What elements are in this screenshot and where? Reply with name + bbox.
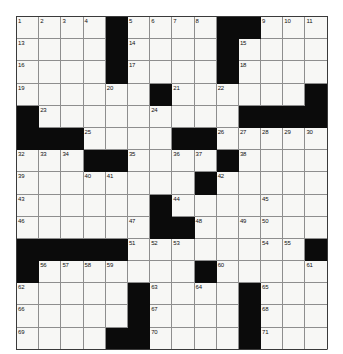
- letter-square[interactable]: 1: [17, 17, 39, 39]
- letter-square[interactable]: [150, 150, 172, 172]
- letter-square[interactable]: [128, 261, 150, 283]
- letter-square[interactable]: 47: [128, 217, 150, 239]
- letter-square[interactable]: 36: [172, 150, 194, 172]
- letter-square[interactable]: [150, 39, 172, 61]
- letter-square[interactable]: [195, 239, 217, 261]
- letter-square[interactable]: [61, 305, 83, 327]
- letter-square[interactable]: [61, 217, 83, 239]
- letter-square[interactable]: 51: [128, 239, 150, 261]
- letter-square[interactable]: 59: [106, 261, 128, 283]
- letter-square[interactable]: [172, 39, 194, 61]
- letter-square[interactable]: [305, 283, 327, 305]
- letter-square[interactable]: [261, 172, 283, 194]
- letter-square[interactable]: [84, 195, 106, 217]
- letter-square[interactable]: 35: [128, 150, 150, 172]
- letter-square[interactable]: 29: [283, 128, 305, 150]
- letter-square[interactable]: [61, 61, 83, 83]
- letter-square[interactable]: [217, 106, 239, 128]
- letter-square[interactable]: [150, 128, 172, 150]
- letter-square[interactable]: 16: [17, 61, 39, 83]
- letter-square[interactable]: 5: [128, 17, 150, 39]
- letter-square[interactable]: 37: [195, 150, 217, 172]
- letter-square[interactable]: 54: [261, 239, 283, 261]
- letter-square[interactable]: [305, 61, 327, 83]
- letter-square[interactable]: [39, 39, 61, 61]
- letter-square[interactable]: 66: [17, 305, 39, 327]
- letter-square[interactable]: [106, 305, 128, 327]
- letter-square[interactable]: [61, 283, 83, 305]
- letter-square[interactable]: [239, 84, 261, 106]
- letter-square[interactable]: 60: [217, 261, 239, 283]
- letter-square[interactable]: 26: [217, 128, 239, 150]
- letter-square[interactable]: 39: [17, 172, 39, 194]
- letter-square[interactable]: 58: [84, 261, 106, 283]
- letter-square[interactable]: [106, 195, 128, 217]
- letter-square[interactable]: [128, 106, 150, 128]
- letter-square[interactable]: [283, 150, 305, 172]
- letter-square[interactable]: [283, 217, 305, 239]
- letter-square[interactable]: 32: [17, 150, 39, 172]
- letter-square[interactable]: [305, 172, 327, 194]
- letter-square[interactable]: [61, 195, 83, 217]
- letter-square[interactable]: [239, 172, 261, 194]
- letter-square[interactable]: [106, 128, 128, 150]
- letter-square[interactable]: [283, 84, 305, 106]
- letter-square[interactable]: [61, 39, 83, 61]
- letter-square[interactable]: [39, 172, 61, 194]
- letter-square[interactable]: 57: [61, 261, 83, 283]
- letter-square[interactable]: [39, 61, 61, 83]
- letter-square[interactable]: 33: [39, 150, 61, 172]
- letter-square[interactable]: 61: [305, 261, 327, 283]
- letter-square[interactable]: 65: [261, 283, 283, 305]
- letter-square[interactable]: [61, 172, 83, 194]
- letter-square[interactable]: [172, 106, 194, 128]
- letter-square[interactable]: 17: [128, 61, 150, 83]
- letter-square[interactable]: [84, 305, 106, 327]
- letter-square[interactable]: [305, 195, 327, 217]
- letter-square[interactable]: [283, 61, 305, 83]
- letter-square[interactable]: 20: [106, 84, 128, 106]
- letter-square[interactable]: 46: [17, 217, 39, 239]
- letter-square[interactable]: [128, 172, 150, 194]
- letter-square[interactable]: [261, 84, 283, 106]
- letter-square[interactable]: [239, 195, 261, 217]
- letter-square[interactable]: [172, 305, 194, 327]
- letter-square[interactable]: 70: [150, 328, 172, 350]
- letter-square[interactable]: 23: [39, 106, 61, 128]
- letter-square[interactable]: [106, 217, 128, 239]
- letter-square[interactable]: [283, 283, 305, 305]
- letter-square[interactable]: 62: [17, 283, 39, 305]
- letter-square[interactable]: [283, 39, 305, 61]
- letter-square[interactable]: [172, 283, 194, 305]
- letter-square[interactable]: [195, 84, 217, 106]
- letter-square[interactable]: [195, 305, 217, 327]
- letter-square[interactable]: 19: [17, 84, 39, 106]
- letter-square[interactable]: [128, 195, 150, 217]
- letter-square[interactable]: [283, 261, 305, 283]
- letter-square[interactable]: 24: [150, 106, 172, 128]
- letter-square[interactable]: [283, 172, 305, 194]
- letter-square[interactable]: [150, 61, 172, 83]
- letter-square[interactable]: [172, 328, 194, 350]
- letter-square[interactable]: 34: [61, 150, 83, 172]
- letter-square[interactable]: [84, 106, 106, 128]
- letter-square[interactable]: [217, 328, 239, 350]
- letter-square[interactable]: [172, 61, 194, 83]
- letter-square[interactable]: 56: [39, 261, 61, 283]
- letter-square[interactable]: 22: [217, 84, 239, 106]
- letter-square[interactable]: 14: [128, 39, 150, 61]
- letter-square[interactable]: 21: [172, 84, 194, 106]
- letter-square[interactable]: 67: [150, 305, 172, 327]
- letter-square[interactable]: 18: [239, 61, 261, 83]
- letter-square[interactable]: [217, 217, 239, 239]
- letter-square[interactable]: [305, 39, 327, 61]
- letter-square[interactable]: [239, 261, 261, 283]
- letter-square[interactable]: [61, 84, 83, 106]
- letter-square[interactable]: [239, 239, 261, 261]
- letter-square[interactable]: [283, 328, 305, 350]
- letter-square[interactable]: 43: [17, 195, 39, 217]
- letter-square[interactable]: [84, 217, 106, 239]
- letter-square[interactable]: [84, 84, 106, 106]
- letter-square[interactable]: [217, 239, 239, 261]
- letter-square[interactable]: 4: [84, 17, 106, 39]
